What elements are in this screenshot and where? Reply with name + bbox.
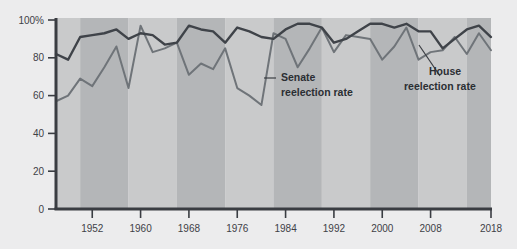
x-tick-label: 1952 (81, 223, 104, 234)
x-tick-label: 1960 (129, 223, 152, 234)
reelection-rate-chart: 020406080100% 19521960196819761984199220… (0, 0, 517, 249)
x-tick-label: 2018 (480, 223, 503, 234)
x-tick-label: 1984 (274, 223, 297, 234)
y-tick-label: 100% (18, 15, 44, 26)
x-tick-label: 1992 (323, 223, 346, 234)
background-band (225, 18, 273, 209)
senate-annotation-line1: Senate (281, 71, 316, 83)
senate-annotation-line2: reelection rate (281, 86, 353, 98)
chart-canvas: 020406080100% 19521960196819761984199220… (0, 0, 517, 249)
background-band (322, 18, 370, 209)
x-tick-label: 2000 (371, 223, 394, 234)
y-tick-label: 0 (38, 204, 44, 215)
y-tick-label: 80 (33, 52, 45, 63)
x-tick-label: 1968 (178, 223, 201, 234)
house-annotation-line2: reelection rate (404, 80, 476, 92)
background-band (274, 18, 322, 209)
x-tick-label: 2008 (419, 223, 442, 234)
y-tick-label: 20 (33, 166, 45, 177)
house-annotation-line1: House (429, 65, 461, 77)
background-band (80, 18, 128, 209)
background-bands (56, 18, 491, 209)
x-tick-label: 1976 (226, 223, 249, 234)
background-band (177, 18, 225, 209)
y-tick-label: 60 (33, 90, 45, 101)
y-tick-label: 40 (33, 128, 45, 139)
background-band (56, 18, 80, 209)
